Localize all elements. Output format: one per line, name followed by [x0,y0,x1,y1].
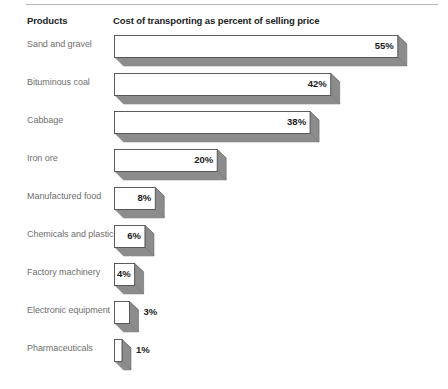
bar-row: Factory machinery4% [0,261,448,299]
bar-row: Chemicals and plastics6% [0,223,448,261]
bar-value-label: 55% [368,40,394,51]
bar-category-label: Iron ore [27,153,95,163]
bar-row: Electronic equipment3% [0,299,448,337]
bar-row: Pharmaceuticals1% [0,337,448,375]
bar-row: Iron ore20% [0,147,448,185]
bar-category-label: Manufactured food [27,191,95,201]
bar-value-label: 6% [115,230,141,241]
bar-category-label: Pharmaceuticals [27,343,95,353]
bar-value-label: 1% [136,344,150,355]
bar-value-label: 20% [187,154,213,165]
bar-value-label: 42% [301,78,327,89]
bar-value-label: 3% [143,306,157,317]
bar-chart-plot-area: Sand and gravel55%Bituminous coal42%Cabb… [0,0,448,389]
bar-category-label: Bituminous coal [27,77,95,87]
bar-row: Sand and gravel55% [0,33,448,71]
bar-row: Bituminous coal42% [0,71,448,109]
bar-row: Cabbage38% [0,109,448,147]
bar-category-label: Chemicals and plastics [27,229,95,239]
bar-3d[interactable] [114,339,133,369]
bar-category-label: Cabbage [27,115,95,125]
bar-value-label: 38% [280,116,306,127]
bar-category-label: Factory machinery [27,267,95,277]
chart-frame: Products Cost of transporting as percent… [0,0,448,389]
bar-category-label: Electronic equipment [27,305,95,315]
bar-value-label: 8% [125,192,151,203]
bar-value-label: 4% [105,268,131,279]
bar-3d[interactable] [114,301,140,331]
bar-3d[interactable] [114,35,409,65]
bar-category-label: Sand and gravel [27,39,95,49]
bar-row: Manufactured food8% [0,185,448,223]
